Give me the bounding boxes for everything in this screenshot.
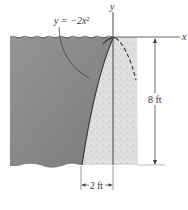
x-axis-label: x xyxy=(181,31,187,42)
hydrostatic-plate-diagram: x y y = −2x² 8 ft 2 ft xyxy=(0,0,188,210)
equation-label: y = −2x² xyxy=(53,15,90,26)
y-axis-label: y xyxy=(109,1,115,12)
width-dimension-label: 2 ft xyxy=(90,181,103,191)
arrow-up-icon xyxy=(153,38,157,43)
arrow-down-icon xyxy=(153,160,157,165)
arrow-left-icon xyxy=(82,183,86,187)
height-dimension-label: 8 ft xyxy=(148,94,162,105)
arrow-right-icon xyxy=(109,183,113,187)
